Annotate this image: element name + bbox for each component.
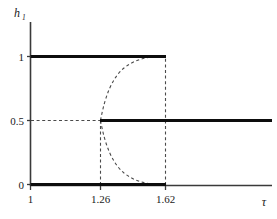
y-tick-label-0: 0 xyxy=(19,179,25,191)
upper-unstable-branch xyxy=(101,57,166,121)
y-tick-label-0p5: 0.5 xyxy=(10,115,24,127)
y-axis-label: h xyxy=(14,6,20,20)
x-tick-label-1: 1 xyxy=(28,193,34,205)
plot-canvas: 1 0.5 0 1 1.26 1.62 h 1 τ xyxy=(0,0,277,219)
x-tick-label-1p62: 1.62 xyxy=(156,193,175,205)
lower-unstable-branch xyxy=(101,121,166,185)
bifurcation-diagram-figure: 1 0.5 0 1 1.26 1.62 h 1 τ xyxy=(0,0,277,219)
y-axis-label-subscript: 1 xyxy=(22,13,26,22)
x-tick-label-1p26: 1.26 xyxy=(91,193,111,205)
x-axis-label: τ xyxy=(262,195,267,209)
y-tick-label-1: 1 xyxy=(19,51,25,63)
